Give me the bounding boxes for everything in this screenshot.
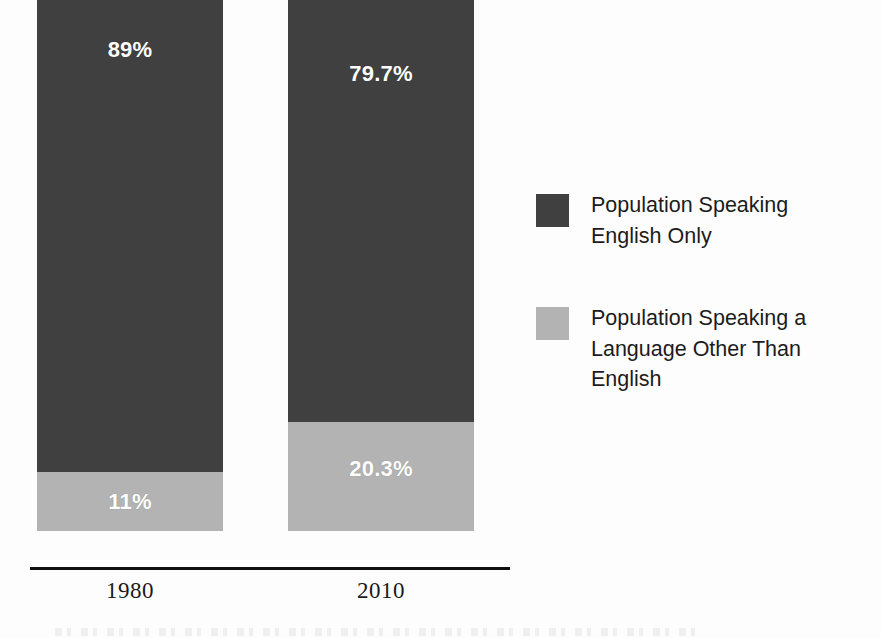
legend-item-english-only[interactable]: Population Speaking English Only xyxy=(536,190,876,251)
bar-column: 89% 11% xyxy=(37,0,223,531)
bar-2010[interactable]: 79.7% 20.3% xyxy=(288,0,474,531)
x-axis-tick-label-1980: 1980 xyxy=(37,578,223,604)
legend-swatch-icon xyxy=(536,194,569,227)
page-scan-artifact xyxy=(55,628,695,636)
x-axis-tick-label-2010: 2010 xyxy=(288,578,474,604)
bar-column: 79.7% 20.3% xyxy=(288,0,474,531)
legend-item-label: Population Speaking English Only xyxy=(591,190,861,251)
plot-area: 89% 11% 79.7% 20.3% 19 xyxy=(0,0,520,600)
bar-segment-english-only-1980[interactable]: 89% xyxy=(37,0,223,472)
legend-swatch-icon xyxy=(536,307,569,340)
bar-value-label: 89% xyxy=(108,39,153,61)
bar-segment-english-only-2010[interactable]: 79.7% xyxy=(288,0,474,422)
bar-value-label: 11% xyxy=(108,491,151,513)
bar-segment-other-language-2010[interactable]: 20.3% xyxy=(288,422,474,531)
legend-item-label: Population Speaking a Language Other Tha… xyxy=(591,303,861,395)
chart-page: 89% 11% 79.7% 20.3% 19 xyxy=(0,0,881,638)
bar-value-label: 20.3% xyxy=(349,458,412,480)
legend-item-other-language[interactable]: Population Speaking a Language Other Tha… xyxy=(536,303,876,395)
bar-segment-other-language-1980[interactable]: 11% xyxy=(37,472,223,531)
bar-value-label: 79.7% xyxy=(349,63,412,85)
bar-1980[interactable]: 89% 11% xyxy=(37,0,223,531)
chart-legend: Population Speaking English Only Populat… xyxy=(536,190,876,395)
x-axis-line xyxy=(30,567,510,570)
